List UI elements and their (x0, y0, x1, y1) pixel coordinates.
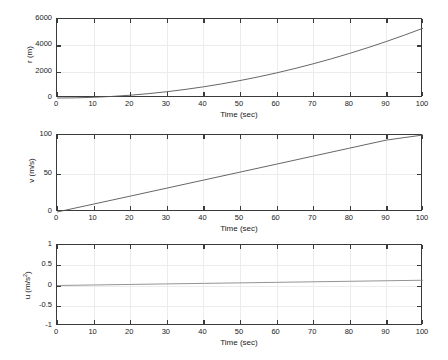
xtick-label: 40 (187, 327, 217, 336)
tick-x (313, 320, 314, 324)
tick-x (167, 320, 168, 324)
tick-y (57, 306, 61, 307)
xtick-label: 20 (114, 327, 144, 336)
plot-axes-u (56, 244, 422, 325)
tick-y (57, 265, 61, 266)
tick-x (130, 245, 131, 249)
tick-x (167, 245, 168, 249)
tick-x (277, 320, 278, 324)
xtick-label: 50 (224, 327, 254, 336)
panel-control: 0102030405060708090100-1-0.500.51 u (m/s… (0, 0, 448, 360)
curve-u (57, 245, 423, 326)
tick-x (130, 320, 131, 324)
ylabel-u: u (m/s2) (22, 252, 33, 318)
tick-x (350, 245, 351, 249)
figure-canvas: 01020304050607080901000200040006000 r (m… (0, 0, 448, 360)
tick-y (417, 265, 421, 266)
tick-y (417, 306, 421, 307)
tick-x (240, 320, 241, 324)
xlabel-u: Time (sec) (179, 338, 299, 347)
xtick-label: 30 (151, 327, 181, 336)
tick-x (203, 320, 204, 324)
tick-x (422, 245, 423, 249)
tick-x (422, 320, 423, 324)
xtick-label: 70 (297, 327, 327, 336)
tick-x (94, 320, 95, 324)
tick-x (203, 245, 204, 249)
tick-y (57, 286, 61, 287)
xtick-label: 60 (261, 327, 291, 336)
tick-x (350, 320, 351, 324)
xtick-label: 100 (407, 327, 437, 336)
ylabel-u-text: u (m/s (23, 277, 32, 299)
ytick-label: -1 (18, 320, 52, 329)
tick-y (417, 286, 421, 287)
xtick-label: 80 (334, 327, 364, 336)
tick-x (313, 245, 314, 249)
tick-x (277, 245, 278, 249)
data-line-u (57, 280, 423, 285)
tick-x (386, 245, 387, 249)
ytick-label: 1 (18, 239, 52, 248)
tick-x (94, 245, 95, 249)
tick-x (57, 320, 58, 324)
xtick-label: 90 (370, 327, 400, 336)
ylabel-u-exponent: 2 (22, 274, 28, 277)
ylabel-u-tail: ) (23, 271, 32, 274)
tick-x (386, 320, 387, 324)
tick-x (240, 245, 241, 249)
tick-x (57, 245, 58, 249)
xtick-label: 10 (78, 327, 108, 336)
